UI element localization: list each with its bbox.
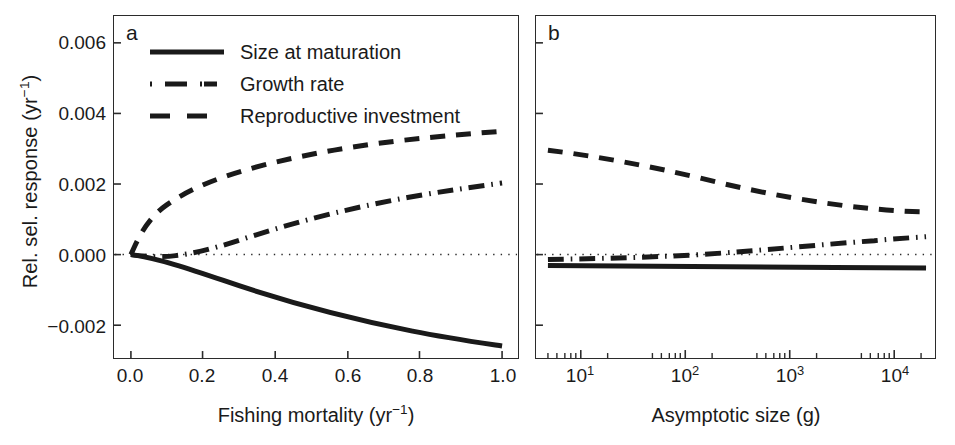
panel-b: b: [535, 15, 936, 359]
legend-item-growth-rate: Growth rate: [148, 68, 518, 100]
legend-key-dashdot-icon: [148, 76, 226, 92]
panel-a-y-ticks: [114, 43, 121, 325]
legend-label: Growth rate: [240, 74, 344, 94]
panel-a-x-axis-label-text: Fishing mortality (yr: [218, 404, 392, 426]
panel-a-x-tick-label: 0.4: [262, 366, 288, 385]
panel-b-curve-size-at-maturation: [548, 266, 926, 268]
panel-b-x-tick-mantissa: 10: [881, 365, 902, 386]
panel-a-x-tick-label: 1.0: [490, 366, 516, 385]
panel-b-x-tick-exponent: 4: [902, 363, 909, 378]
y-tick-label: 0.004: [20, 104, 106, 123]
panel-a-x-tick-label: 0.8: [407, 366, 433, 385]
panel-b-x-axis-label: Asymptotic size (g): [652, 404, 821, 427]
panel-a-x-axis-label: Fishing mortality (yr−1): [218, 404, 415, 427]
panel-b-x-tick-exponent: 3: [797, 363, 804, 378]
legend-label: Reproductive investment: [240, 106, 460, 126]
y-tick-label: 0.006: [20, 33, 106, 52]
y-tick-label: −0.002: [20, 317, 106, 336]
panel-b-x-tick-mantissa: 10: [776, 365, 797, 386]
panel-b-x-tick-label: 104: [881, 366, 909, 385]
panel-b-y-ticks: [536, 43, 543, 325]
panel-b-x-tick-mantissa: 10: [671, 365, 692, 386]
panel-b-x-tick-label: 103: [776, 366, 804, 385]
panel-b-x-tick-label: 101: [566, 366, 594, 385]
figure-root: Rel. sel. response (yr−1) 0.006 0.004 0.…: [0, 0, 955, 445]
panel-b-curve-reproductive-investment: [548, 150, 926, 212]
legend: Size at maturation Growth rate Reproduct…: [148, 36, 518, 132]
panel-b-x-tick-exponent: 1: [587, 363, 594, 378]
panel-a-x-tick-label: 0.6: [335, 366, 361, 385]
legend-key-dashed-icon: [148, 108, 226, 124]
panel-b-x-ticks-minor: [548, 353, 921, 358]
panel-b-curve-growth-rate: [548, 237, 926, 260]
legend-label: Size at maturation: [240, 42, 401, 62]
panel-a-curve-size-at-maturation: [131, 255, 502, 346]
panel-b-plot-area: [536, 16, 935, 358]
y-tick-label-group: 0.006 0.004 0.002 0.000 −0.002: [14, 0, 106, 445]
panel-a-x-axis-label-close: ): [408, 404, 415, 426]
panel-a-x-tick-label: 0.2: [189, 366, 215, 385]
panel-a-x-axis-label-exponent: −1: [392, 402, 408, 417]
y-tick-label: 0.002: [20, 175, 106, 194]
panel-a-x-tick-label: 0.0: [117, 366, 143, 385]
panel-a-x-ticks: [131, 351, 502, 358]
y-tick-label: 0.000: [20, 246, 106, 265]
panel-b-x-tick-mantissa: 10: [566, 365, 587, 386]
panel-b-x-tick-exponent: 2: [692, 363, 699, 378]
legend-key-solid-icon: [148, 44, 226, 60]
panel-b-x-ticks-major: [581, 350, 894, 358]
panel-b-x-tick-label: 102: [671, 366, 699, 385]
legend-item-reproductive-investment: Reproductive investment: [148, 100, 518, 132]
legend-item-size-at-maturation: Size at maturation: [148, 36, 518, 68]
